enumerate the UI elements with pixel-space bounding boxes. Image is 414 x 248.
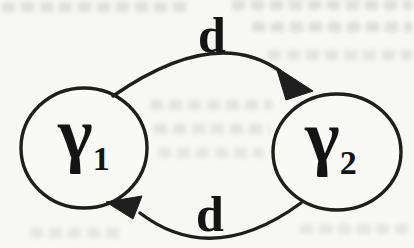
gamma2-symbol: γ — [304, 95, 340, 177]
gamma1-symbol: γ — [57, 92, 93, 174]
gamma2-subscript: 2 — [340, 144, 357, 181]
edge-label-bottom: d — [196, 186, 224, 242]
edge-top-gamma1-to-gamma2 — [113, 53, 280, 96]
transition-diagram: γ1 γ2 d d — [0, 0, 414, 248]
edge-label-top: d — [198, 7, 226, 63]
gamma1-subscript: 1 — [93, 140, 110, 177]
